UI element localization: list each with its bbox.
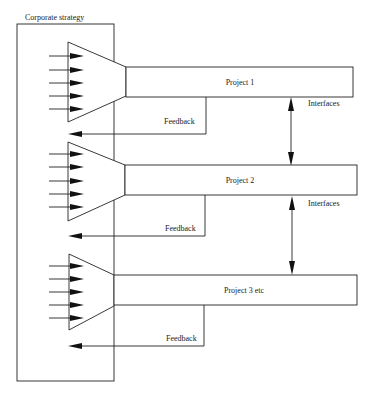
arrow-left-icon xyxy=(68,233,82,239)
project-group-2: Project 2 Feedback xyxy=(49,142,357,239)
arrow-down-icon xyxy=(288,152,294,166)
arrow-down-icon xyxy=(289,261,295,275)
interfaces-arrow-1 xyxy=(288,97,294,166)
arrow-up-icon xyxy=(289,196,295,210)
arrow-left-icon xyxy=(68,131,82,137)
interfaces-label-2: Interfaces xyxy=(308,199,340,208)
project-1-label: Project 1 xyxy=(226,78,255,87)
feedback-label-3: Feedback xyxy=(166,334,197,343)
project-group-1: Project 1 Feedback xyxy=(49,42,353,137)
feedback-label-2: Feedback xyxy=(165,224,196,233)
project-group-3: Project 3 etc Feedback xyxy=(49,254,357,349)
arrow-left-icon xyxy=(68,343,82,349)
project-strategy-diagram: Corporate strategy Project 1 Feedback In… xyxy=(0,0,369,394)
interfaces-arrow-2 xyxy=(289,196,295,275)
project-2-label: Project 2 xyxy=(226,176,255,185)
corporate-strategy-label: Corporate strategy xyxy=(25,13,84,22)
arrow-up-icon xyxy=(288,97,294,111)
interfaces-label-1: Interfaces xyxy=(308,99,340,108)
project-3-label: Project 3 etc xyxy=(224,286,264,295)
feedback-label-1: Feedback xyxy=(164,117,195,126)
